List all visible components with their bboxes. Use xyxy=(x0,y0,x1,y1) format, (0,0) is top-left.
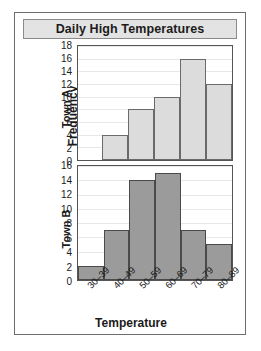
gridline xyxy=(78,160,232,161)
bar xyxy=(206,84,232,160)
y-tick-label: 16 xyxy=(61,160,72,171)
y-tick-label: 0 xyxy=(66,276,72,287)
chart-figure: Daily High Temperatures Frequency 024681… xyxy=(14,12,246,335)
bar xyxy=(180,59,206,160)
bar xyxy=(128,109,154,160)
panel-label-town-a: Town A xyxy=(60,64,72,154)
y-tick-label: 18 xyxy=(61,40,72,51)
chart-title-band: Daily High Temperatures xyxy=(23,19,237,39)
panel-town-a: 024681012141618 Town A xyxy=(77,45,233,161)
x-axis-label: Temperature xyxy=(15,316,247,330)
page-title: Daily High Temperatures xyxy=(56,22,205,36)
bar xyxy=(154,97,180,160)
panel-label-town-b: Town B xyxy=(60,184,72,274)
y-tick-label: 16 xyxy=(61,52,72,63)
bars-town-a xyxy=(78,46,232,160)
bar xyxy=(155,173,181,280)
bar xyxy=(102,135,128,160)
plot-area-town-a xyxy=(77,45,233,161)
bars-town-b xyxy=(78,166,232,280)
bar xyxy=(129,180,155,280)
